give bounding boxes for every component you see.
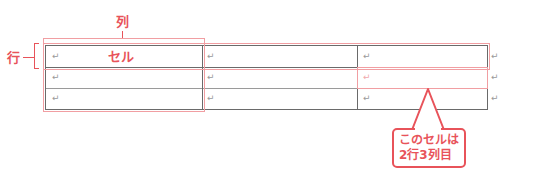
cell-r3c2-mark[interactable]: ↵ — [207, 94, 215, 103]
row-label-tick — [23, 57, 34, 58]
row-bracket — [34, 43, 39, 69]
callout-line2: 2行3列目 — [399, 148, 464, 163]
callout-pointer — [400, 86, 460, 132]
row3-end-mark: ↵ — [491, 94, 499, 103]
column-label-tick — [122, 31, 123, 38]
row-highlight — [43, 43, 490, 70]
cell-r3c3-mark[interactable]: ↵ — [363, 94, 371, 103]
cell-r2c2-mark[interactable]: ↵ — [207, 73, 215, 82]
callout-pointer-cover — [415, 127, 441, 131]
row-label: 行 — [7, 51, 20, 64]
callout-box: このセルは 2行3列目 — [392, 128, 466, 168]
row2-end-mark: ↵ — [491, 73, 499, 82]
column-label: 列 — [116, 15, 129, 28]
callout-line1: このセルは — [399, 133, 464, 148]
row1-end-mark: ↵ — [491, 52, 499, 61]
